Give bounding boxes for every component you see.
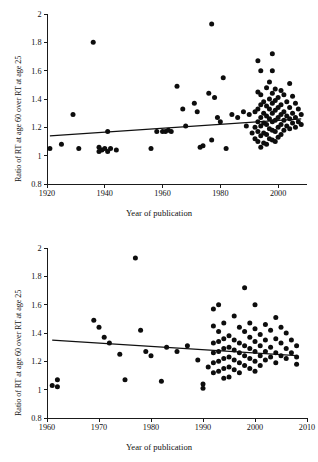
data-point bbox=[201, 143, 206, 148]
data-point bbox=[279, 340, 284, 345]
data-point bbox=[284, 346, 289, 351]
data-point bbox=[258, 353, 263, 358]
data-point bbox=[209, 21, 214, 26]
data-point bbox=[195, 357, 200, 362]
data-point bbox=[224, 146, 229, 151]
data-point bbox=[216, 302, 221, 307]
data-point bbox=[76, 146, 81, 151]
data-point bbox=[270, 91, 275, 96]
data-point bbox=[232, 314, 237, 319]
data-point bbox=[247, 346, 252, 351]
data-point bbox=[117, 352, 122, 357]
data-point bbox=[221, 75, 226, 80]
data-point bbox=[242, 363, 247, 368]
data-point bbox=[253, 359, 258, 364]
data-point bbox=[221, 346, 226, 351]
data-point bbox=[244, 123, 249, 128]
data-point bbox=[258, 145, 263, 150]
y-tick-label: 1.6 bbox=[31, 67, 41, 76]
x-tick-label: 1960 bbox=[39, 423, 55, 432]
chart-panel-top: 0.811.21.41.61.8219201940196019802000 Ra… bbox=[0, 0, 318, 228]
x-tick-label: 1920 bbox=[39, 189, 55, 198]
data-point bbox=[247, 335, 252, 340]
data-point bbox=[284, 331, 289, 336]
data-point bbox=[258, 92, 263, 97]
data-point bbox=[263, 338, 268, 343]
data-point bbox=[216, 329, 221, 334]
data-point bbox=[105, 129, 110, 134]
data-point bbox=[149, 146, 154, 151]
data-point bbox=[279, 353, 284, 358]
data-point bbox=[294, 343, 299, 348]
data-point bbox=[281, 118, 286, 123]
data-point bbox=[242, 329, 247, 334]
data-point bbox=[216, 359, 221, 364]
data-point bbox=[258, 332, 263, 337]
data-point bbox=[264, 142, 269, 147]
data-point bbox=[289, 338, 294, 343]
data-point bbox=[211, 350, 216, 355]
data-point bbox=[206, 91, 211, 96]
scatter-plot-bottom: 0.811.21.41.61.8219601970198019902000201… bbox=[0, 232, 318, 462]
data-point bbox=[264, 85, 269, 90]
data-point bbox=[258, 363, 263, 368]
data-point bbox=[164, 345, 169, 350]
data-point bbox=[281, 109, 286, 114]
data-point bbox=[293, 125, 298, 130]
data-point bbox=[268, 345, 273, 350]
data-point bbox=[211, 370, 216, 375]
data-point bbox=[195, 109, 200, 114]
data-point bbox=[287, 81, 292, 86]
data-point bbox=[175, 349, 180, 354]
data-point bbox=[247, 321, 252, 326]
data-point bbox=[232, 357, 237, 362]
data-point bbox=[294, 355, 299, 360]
data-point bbox=[241, 109, 246, 114]
data-point bbox=[221, 366, 226, 371]
data-point bbox=[242, 343, 247, 348]
data-point bbox=[268, 355, 273, 360]
data-point bbox=[290, 111, 295, 116]
data-point bbox=[270, 51, 275, 56]
data-point bbox=[287, 105, 292, 110]
data-point bbox=[273, 139, 278, 144]
data-point bbox=[253, 339, 258, 344]
data-point bbox=[258, 343, 263, 348]
data-point bbox=[55, 377, 60, 382]
data-point bbox=[221, 376, 226, 381]
data-point bbox=[284, 99, 289, 104]
data-point bbox=[287, 126, 292, 131]
scatter-plot-top: 0.811.21.41.61.8219201940196019802000 bbox=[0, 0, 318, 228]
data-point bbox=[227, 355, 232, 360]
data-points bbox=[47, 21, 303, 154]
data-point bbox=[59, 142, 64, 147]
x-axis-label-top: Year of publication bbox=[0, 208, 318, 218]
x-tick-label: 2000 bbox=[270, 189, 286, 198]
data-point bbox=[185, 343, 190, 348]
x-tick-label: 2000 bbox=[247, 423, 263, 432]
data-point bbox=[221, 321, 226, 326]
data-point bbox=[253, 369, 258, 374]
data-point bbox=[47, 146, 52, 151]
data-point bbox=[221, 356, 226, 361]
data-point bbox=[253, 302, 258, 307]
x-tick-label: 1990 bbox=[195, 423, 211, 432]
data-point bbox=[216, 349, 221, 354]
data-point bbox=[273, 350, 278, 355]
data-point bbox=[263, 357, 268, 362]
data-point bbox=[201, 386, 206, 391]
data-point bbox=[211, 306, 216, 311]
data-point bbox=[180, 106, 185, 111]
data-point bbox=[279, 325, 284, 330]
y-tick-label: 1.4 bbox=[31, 95, 41, 104]
data-point bbox=[91, 318, 96, 323]
data-point bbox=[247, 356, 252, 361]
data-point bbox=[102, 335, 107, 340]
data-point bbox=[91, 40, 96, 45]
y-tick-label: 1.4 bbox=[31, 329, 41, 338]
y-tick-label: 2 bbox=[37, 244, 41, 253]
data-point bbox=[247, 366, 252, 371]
x-tick-label: 2010 bbox=[299, 423, 315, 432]
data-point bbox=[237, 350, 242, 355]
data-point bbox=[299, 122, 304, 127]
